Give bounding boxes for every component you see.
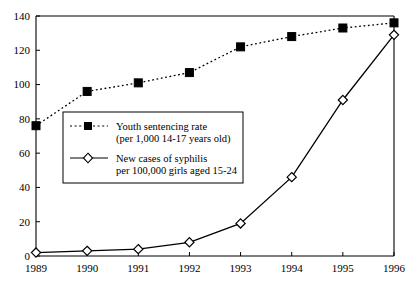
x-axis-tick-label: 1994: [281, 262, 304, 274]
data-point-square: [237, 43, 245, 51]
x-axis-tick-label: 1993: [230, 262, 253, 274]
y-axis-tick-label: 0: [25, 250, 31, 262]
data-point-square: [185, 69, 193, 77]
line-chart: 020406080100120140 198919901991199219931…: [0, 0, 415, 289]
legend-label-youth-line2: (per 1,000 14-17 years old): [116, 133, 231, 145]
x-axis-tick-label: 1991: [127, 262, 149, 274]
x-axis-tick-group: 19891990199119921993199419951996: [25, 252, 406, 274]
y-axis-tick-label: 140: [14, 10, 31, 22]
x-axis-tick-label: 1995: [332, 262, 355, 274]
legend-filled-square-icon: [84, 122, 92, 130]
chart-canvas: 020406080100120140 198919901991199219931…: [0, 0, 415, 289]
legend-label-youth-line1: Youth sentencing rate: [116, 121, 207, 132]
data-point-square: [83, 87, 91, 95]
series-line: [36, 23, 394, 126]
legend-label-syphilis-line2: per 100,000 girls aged 15-24: [116, 165, 238, 176]
y-axis-tick-label: 40: [19, 181, 31, 193]
y-axis-tick-label: 80: [19, 113, 31, 125]
x-axis-tick-label: 1996: [383, 262, 406, 274]
legend-label-syphilis-line1: New cases of syphilis: [116, 153, 207, 164]
data-point-diamond: [134, 245, 143, 254]
data-point-square: [339, 24, 347, 32]
y-axis-tick-label: 60: [19, 147, 31, 159]
data-point-square: [288, 33, 296, 41]
data-point-square: [390, 19, 398, 27]
data-point-diamond: [83, 246, 92, 255]
data-point-diamond: [185, 238, 194, 247]
data-point-square: [32, 122, 40, 130]
x-axis-tick-label: 1992: [178, 262, 200, 274]
y-axis-tick-label: 120: [14, 44, 31, 56]
x-axis-tick-label: 1989: [25, 262, 48, 274]
x-axis-tick-label: 1990: [76, 262, 99, 274]
y-axis-tick-label: 20: [19, 216, 31, 228]
chart-legend: Youth sentencing rate (per 1,000 14-17 y…: [63, 112, 243, 183]
data-point-square: [134, 79, 142, 87]
y-axis-tick-label: 100: [14, 78, 31, 90]
